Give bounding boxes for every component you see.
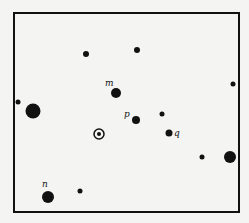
point-label-n: n bbox=[42, 179, 48, 189]
point-dot-4 bbox=[16, 100, 21, 105]
point-dot-p bbox=[132, 116, 140, 124]
point-label-q: q bbox=[174, 128, 180, 138]
point-distribution-diagram: mpqn bbox=[0, 0, 249, 223]
center-marker-dot-icon bbox=[97, 132, 101, 136]
point-dot-9 bbox=[78, 189, 83, 194]
point-dot-8 bbox=[224, 151, 236, 163]
point-dot-m bbox=[111, 88, 121, 98]
point-dot-1 bbox=[83, 51, 89, 57]
point-label-m: m bbox=[105, 78, 114, 88]
point-dot-5 bbox=[26, 104, 41, 119]
point-label-p: p bbox=[124, 109, 130, 119]
point-dot-3 bbox=[231, 82, 236, 87]
point-dot-7 bbox=[200, 155, 205, 160]
point-dot-q bbox=[166, 130, 173, 137]
point-dot-6 bbox=[160, 112, 165, 117]
point-dot-2 bbox=[134, 47, 140, 53]
point-dot-n bbox=[42, 191, 54, 203]
